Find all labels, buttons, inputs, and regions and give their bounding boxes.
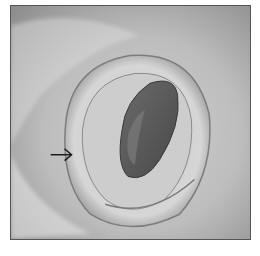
endoscopy-photo — [10, 5, 251, 240]
endoscopy-image — [11, 6, 250, 239]
